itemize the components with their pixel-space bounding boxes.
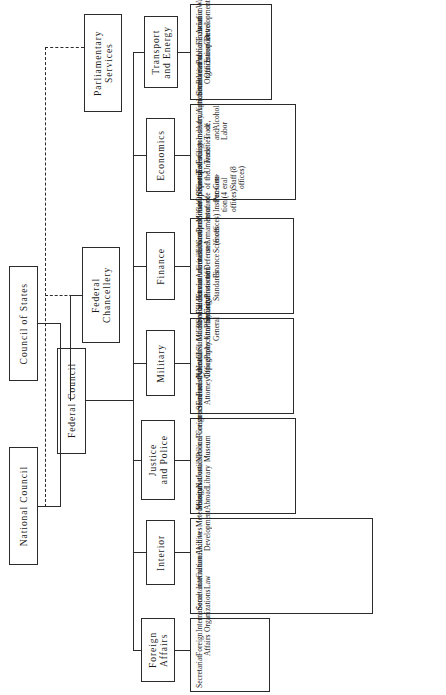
office-item: Social Security	[196, 298, 213, 323]
connector-dashed-to-chancellery	[45, 295, 82, 296]
federal-council-label: Federal Council	[66, 363, 77, 438]
node-federal-council: Federal Council	[57, 348, 86, 454]
node-department-military: Military	[146, 330, 175, 396]
council-of-states-label: Council of States	[18, 283, 29, 364]
connector-spine-to-finance	[133, 266, 146, 267]
department-label: Foreign Affairs	[147, 619, 170, 681]
connector-national-council-stub	[38, 506, 61, 507]
node-federal-chancellery: Federal Chancellery	[82, 247, 120, 343]
office-item: Statistics	[196, 323, 205, 350]
office-item: Health	[196, 351, 205, 371]
node-national-council: National Council	[9, 447, 38, 565]
office-item: Construction	[196, 396, 205, 435]
org-chart: Council of States National Council Feder…	[0, 0, 446, 695]
office-item: Forestry	[196, 371, 205, 396]
office-item: Foreign Affairs	[196, 632, 213, 656]
connector-spine-to-justice-and-police	[133, 460, 141, 461]
office-item: Bureau of Organization	[196, 45, 213, 85]
office-item: Administration of Alcohol	[196, 84, 222, 130]
connector-departments-spine	[133, 52, 134, 650]
connector-dashed-vertical	[45, 47, 46, 507]
detail-box-foreign-affairs: SecretariatForeign AffairsInternational …	[190, 618, 270, 692]
node-department-transport-and-energy: Transport and Energy	[144, 16, 178, 88]
connector-finance-to-detail	[175, 266, 190, 267]
department-label: Economics	[155, 130, 166, 181]
parliamentary-services-label: Parliamentary Services	[92, 15, 115, 111]
node-department-justice-and-police: Justice and Police	[141, 420, 175, 500]
connector-parliament-spine	[60, 323, 61, 507]
office-item: Financial Control	[196, 17, 213, 45]
node-parliamentary-services: Parliamentary Services	[84, 14, 122, 112]
node-department-foreign-affairs: Foreign Affairs	[141, 618, 175, 682]
office-item: International Organizations	[196, 589, 213, 631]
connector-federal-council-to-departments	[86, 400, 134, 401]
connector-interior-to-detail	[175, 552, 190, 553]
connector-justice-and-police-to-detail	[175, 460, 190, 461]
national-council-label: National Council	[18, 466, 29, 546]
connector-economics-to-detail	[175, 155, 190, 156]
office-item: Environmental Protection	[196, 253, 213, 298]
connector-transport-and-energy-to-detail	[178, 52, 190, 53]
department-label: Military	[155, 344, 166, 383]
connector-spine-to-transport-and-energy	[133, 52, 144, 53]
department-label: Finance	[155, 248, 166, 285]
connector-dashed-to-parliamentary-services	[45, 47, 84, 48]
connector-military-to-detail	[175, 363, 190, 364]
department-label: Transport and Energy	[150, 26, 173, 79]
connector-council-of-states-stub	[38, 323, 61, 324]
office-item: Secretariat	[196, 656, 205, 688]
office-list: SecretariatForeign AffairsInternational …	[195, 622, 213, 688]
node-department-interior: Interior	[146, 520, 175, 585]
connector-foreign-affairs-to-detail	[175, 650, 190, 651]
node-department-finance: Finance	[146, 232, 175, 300]
office-item: International Law	[196, 551, 213, 590]
connector-spine-to-military	[133, 363, 146, 364]
connector-spine-to-interior	[133, 552, 146, 553]
office-item: Federal Universities	[196, 136, 213, 173]
node-council-of-states: Council of States	[9, 266, 38, 381]
office-item: Sports	[196, 173, 205, 192]
node-department-economics: Economics	[146, 118, 175, 192]
office-item: National Museum	[196, 435, 213, 462]
federal-chancellery-label: Federal Chancellery	[90, 248, 113, 342]
department-label: Interior	[155, 535, 166, 571]
office-item: Education and Sciences	[196, 222, 222, 253]
connector-spine-to-economics	[133, 155, 146, 156]
connector-spine-to-foreign-affairs	[133, 650, 141, 651]
connector-chancellery-riser	[70, 295, 71, 401]
department-label: Justice and Police	[147, 435, 170, 484]
office-item: Missions Abroad	[196, 482, 213, 509]
detail-box-interior: SecretariatCultureArchivesMeteorologyNat…	[190, 518, 373, 614]
office-item: Military Insurance	[196, 192, 213, 222]
office-item: Aid to Development	[196, 510, 213, 551]
